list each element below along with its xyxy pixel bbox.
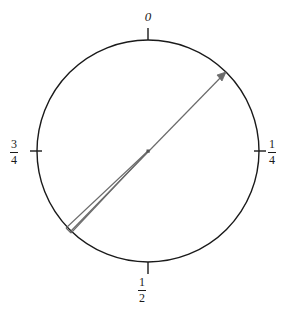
- fraction-denominator: 4: [10, 154, 18, 167]
- tick-label-one-quarter: 1 4: [268, 138, 288, 167]
- fraction-denominator: 4: [268, 154, 276, 167]
- center-dot-marker: [147, 150, 150, 153]
- wedge-edge-lower: [66, 151, 148, 228]
- phase-circle-diagram: 0 1 4 1 2 3 4: [0, 0, 296, 321]
- phase-diagram-canvas: [0, 0, 296, 321]
- tick-label-zero: 0: [134, 10, 162, 23]
- fraction-one-quarter: 1 4: [268, 138, 276, 166]
- fraction-numerator: 1: [138, 276, 146, 289]
- tick-label-three-quarters: 3 4: [10, 138, 30, 167]
- fraction-denominator: 2: [138, 292, 146, 305]
- fraction-numerator: 1: [268, 138, 276, 151]
- tick-label-one-half: 1 2: [138, 276, 158, 305]
- fraction-one-half: 1 2: [138, 276, 146, 304]
- fraction-three-quarters: 3 4: [10, 138, 18, 166]
- fraction-numerator: 3: [10, 138, 18, 151]
